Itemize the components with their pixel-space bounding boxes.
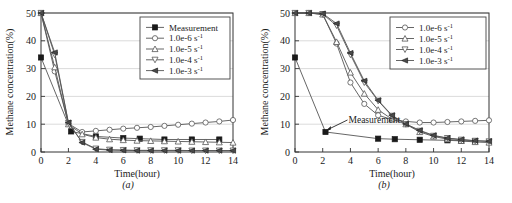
legend-exponent: -1 — [198, 54, 203, 61]
panel-a-plot: 0246810121401020304050 Time(hour) Methan… — [0, 0, 256, 203]
data-point — [38, 55, 43, 60]
legend-label-measurement: Measurement — [169, 23, 218, 33]
data-point — [417, 120, 422, 125]
legend-exponent: -1 — [448, 55, 453, 62]
ytick-label-0: 0 — [31, 147, 36, 158]
data-point — [162, 123, 167, 128]
ytick-label-40: 40 — [280, 35, 290, 46]
panel-a-xlabel: Time(hour) — [114, 168, 160, 180]
data-point — [431, 120, 436, 125]
xtick-label-4: 4 — [348, 155, 353, 166]
figure-container: 0246810121401020304050 Time(hour) Methan… — [0, 0, 512, 203]
data-point — [292, 55, 297, 60]
xtick-label-6: 6 — [376, 155, 381, 166]
xtick-label-6: 6 — [121, 155, 126, 166]
panel-b-plot: 0246810121401020304050 Measurement Time(… — [256, 0, 512, 203]
legend-marker-measurement — [152, 25, 157, 30]
panel-a: 0246810121401020304050 Time(hour) Methan… — [0, 0, 256, 203]
data-point — [347, 69, 353, 75]
ytick-label-30: 30 — [280, 63, 290, 74]
panel-a-ylabel: Methane concentration(%) — [4, 29, 16, 136]
xtick-label-14: 14 — [484, 155, 494, 166]
ytick-label-20: 20 — [26, 91, 36, 102]
panel-b-ylabel: Methane concentration(%) — [259, 29, 271, 136]
xtick-label-8: 8 — [403, 155, 408, 166]
legend-exponent: -1 — [448, 33, 453, 40]
ytick-label-10: 10 — [26, 119, 36, 130]
panel-b-xlabel: Time(hour) — [369, 168, 415, 180]
legend-marker-e6_base — [402, 25, 407, 30]
xtick-label-0: 0 — [293, 155, 298, 166]
data-point — [473, 118, 478, 123]
legend-exponent: -1 — [448, 44, 453, 51]
data-point — [392, 137, 397, 142]
ytick-label-50: 50 — [26, 8, 36, 19]
data-point — [121, 126, 126, 131]
xtick-label-10: 10 — [173, 155, 183, 166]
data-point — [148, 124, 153, 129]
legend-marker-e6_base — [152, 36, 157, 41]
xtick-label-12: 12 — [201, 155, 211, 166]
ytick-label-40: 40 — [26, 35, 36, 46]
legend-exponent: -1 — [198, 65, 203, 72]
annotation-label-measurement: Measurement — [348, 115, 400, 125]
data-point — [230, 117, 235, 122]
data-point — [176, 122, 181, 127]
data-point — [486, 118, 491, 123]
data-point — [107, 127, 112, 132]
ytick-label-0: 0 — [285, 147, 290, 158]
panel-b-legend: 1.0e-6 s-11.0e-5 s-11.0e-4 s-11.0e-3 s-1 — [390, 17, 486, 69]
xtick-label-2: 2 — [66, 155, 71, 166]
data-point — [376, 136, 381, 141]
data-point — [348, 80, 353, 85]
panel-b-caption: (b) — [256, 180, 512, 190]
panel-b: 0246810121401020304050 Measurement Time(… — [256, 0, 512, 203]
panel-a-caption: (a) — [0, 180, 256, 190]
ytick-label-20: 20 — [280, 91, 290, 102]
legend-exponent: -1 — [448, 22, 453, 29]
xtick-label-4: 4 — [93, 155, 98, 166]
data-point — [445, 119, 450, 124]
legend-exponent: -1 — [198, 43, 203, 50]
xtick-label-14: 14 — [228, 155, 238, 166]
xtick-label-0: 0 — [39, 155, 44, 166]
xtick-label-8: 8 — [148, 155, 153, 166]
annotation-arrow-head — [325, 126, 331, 131]
data-point — [362, 101, 367, 106]
ytick-label-10: 10 — [280, 119, 290, 130]
data-point — [417, 137, 422, 142]
ytick-label-50: 50 — [280, 8, 290, 19]
xtick-label-2: 2 — [320, 155, 325, 166]
data-point — [459, 119, 464, 124]
annotation-arrow-line — [328, 120, 348, 129]
xtick-label-12: 12 — [456, 155, 466, 166]
series-line — [295, 57, 475, 141]
data-point — [134, 125, 139, 130]
data-point — [217, 119, 222, 124]
legend-exponent: -1 — [198, 32, 203, 39]
ytick-label-30: 30 — [26, 63, 36, 74]
data-point — [203, 120, 208, 125]
data-point — [189, 121, 194, 126]
panel-b-annotation: Measurement — [325, 115, 400, 131]
xtick-label-10: 10 — [429, 155, 439, 166]
panel-a-legend: Measurement1.0e-6 s-11.0e-5 s-11.0e-4 s-… — [140, 17, 230, 79]
data-point — [361, 91, 367, 97]
data-point — [93, 128, 98, 133]
